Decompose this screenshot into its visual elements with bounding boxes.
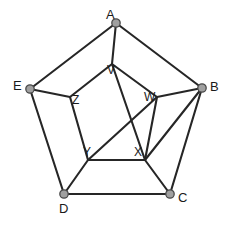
node-layer bbox=[26, 19, 206, 198]
graph-vertex-e[interactable] bbox=[26, 85, 34, 93]
vertex-label-c: C bbox=[178, 191, 187, 204]
edge-E-Z bbox=[30, 89, 70, 97]
vertex-label-z: Z bbox=[72, 94, 79, 106]
vertex-label-a: A bbox=[106, 8, 115, 21]
edge-D-Y bbox=[64, 160, 88, 194]
graph-diagram: ABCDEVWXYZ bbox=[0, 0, 230, 225]
graph-vertex-c[interactable] bbox=[166, 190, 174, 198]
graph-canvas bbox=[0, 0, 230, 225]
vertex-label-x: X bbox=[134, 146, 142, 158]
graph-vertex-b[interactable] bbox=[198, 84, 206, 92]
edge-A-V bbox=[112, 23, 116, 64]
graph-vertex-d[interactable] bbox=[60, 190, 68, 198]
edge-A-B bbox=[116, 23, 202, 88]
edge-layer bbox=[30, 23, 202, 194]
vertex-label-d: D bbox=[59, 202, 68, 215]
edge-D-E bbox=[30, 89, 64, 194]
vertex-label-v: V bbox=[107, 64, 115, 76]
vertex-label-y: Y bbox=[83, 146, 91, 158]
vertex-label-b: B bbox=[210, 80, 219, 93]
edge-B-C bbox=[170, 88, 202, 194]
vertex-label-e: E bbox=[13, 79, 22, 92]
edge-C-X bbox=[145, 160, 170, 194]
edge-E-A bbox=[30, 23, 116, 89]
vertex-label-w: W bbox=[144, 91, 155, 103]
